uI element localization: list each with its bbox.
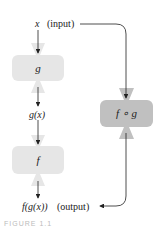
intermediate-value: g(x) <box>29 109 45 120</box>
input-note: (input) <box>47 18 74 29</box>
composite-label: f ∘ g <box>100 107 153 119</box>
f-label: f <box>12 154 64 166</box>
arrow-input-to-composite <box>80 24 126 98</box>
g-label: g <box>12 62 64 74</box>
input-variable: x <box>35 18 39 29</box>
figure-caption: FIGURE 1.1 <box>4 220 52 227</box>
arrow-composite-to-output <box>100 133 126 206</box>
output-note: (output) <box>57 201 89 212</box>
output-expression: f(g(x)) <box>22 201 48 212</box>
